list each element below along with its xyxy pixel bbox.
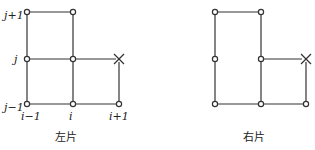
stencil-diagrams: j+1 j j−1 i−1 i i+1 左片 右片: [0, 0, 315, 150]
left-stencil: [24, 9, 124, 106]
y-label-j-plus-1: j+1: [1, 9, 24, 22]
x-label-i-plus-1: i+1: [109, 110, 129, 123]
y-label-j: j: [11, 53, 18, 66]
x-label-i: i: [69, 110, 73, 123]
right-caption: 右片: [243, 130, 265, 144]
left-caption: 左片: [55, 131, 77, 144]
right-stencil: [212, 9, 311, 106]
x-label-i-minus-1: i−1: [21, 110, 41, 123]
